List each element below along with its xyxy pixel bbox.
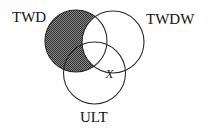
label-ult: ULT [80,109,108,125]
venn-diagram: TWD TWDW ULT X [0,0,208,130]
x-mark: X [105,66,115,81]
label-twd: TWD [12,9,46,25]
label-twdw: TWDW [146,11,195,27]
